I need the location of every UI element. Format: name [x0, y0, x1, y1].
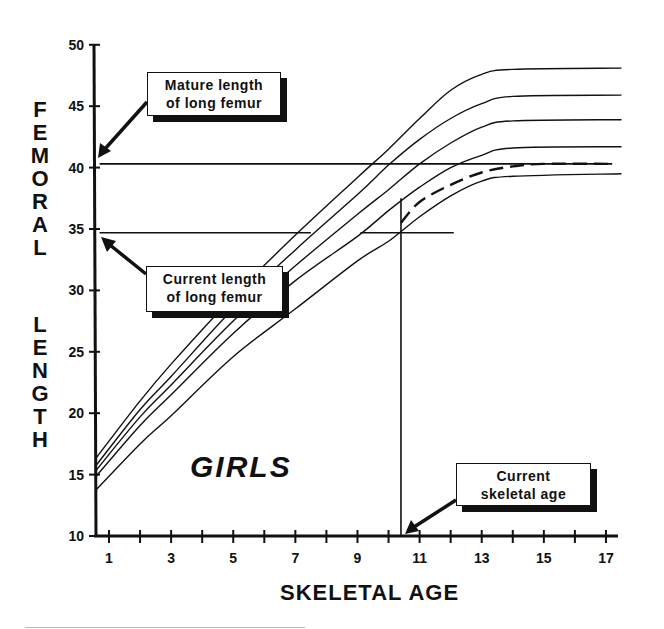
- skeletal-age-arrow: [414, 500, 456, 527]
- y-tick-label: 20: [68, 405, 84, 421]
- x-axis-title: SKELETAL AGE: [280, 580, 459, 605]
- x-tick-label: 3: [167, 550, 175, 566]
- group-label: GIRLS: [190, 450, 292, 483]
- x-tick-label: 7: [291, 550, 299, 566]
- growth-curve: [401, 164, 612, 223]
- y-tick-label: 15: [68, 467, 84, 483]
- y-axis-title-letter: T: [33, 404, 47, 429]
- femoral-length-chart: FEMORALLENGTH 101520253035404550 1357911…: [0, 0, 664, 629]
- mature-arrow: [104, 102, 147, 150]
- y-tick-label: 10: [68, 528, 84, 544]
- y-tick-label: 25: [68, 344, 84, 360]
- x-tick-label: 13: [474, 550, 490, 566]
- growth-curve: [97, 68, 622, 457]
- current-length-arrow: [110, 245, 146, 274]
- y-axis-title: FEMORALLENGTH: [31, 97, 49, 452]
- current-length-callout-line1: Current length: [151, 270, 278, 288]
- y-axis-title-letter: H: [32, 427, 48, 452]
- x-tick-label: 1: [105, 550, 113, 566]
- skeletal-age-callout-line1: Current: [461, 467, 586, 485]
- x-tick-label: 17: [598, 550, 614, 566]
- y-axis-title-letter: O: [31, 166, 48, 191]
- growth-curve: [97, 174, 622, 490]
- y-axis-title-letter: E: [33, 335, 48, 360]
- mature-callout-line2: of long femur: [152, 94, 276, 112]
- y-axis-title-letter: G: [31, 381, 48, 406]
- y-tick-label: 50: [68, 37, 84, 53]
- y-tick-label: 45: [68, 98, 84, 114]
- y-axis-title-letter: N: [32, 358, 48, 383]
- x-tick-label: 11: [412, 550, 427, 566]
- mature-length-callout: Mature length of long femur: [147, 72, 281, 116]
- x-tick-label: 9: [354, 550, 362, 566]
- y-axis-title-letter: L: [33, 235, 46, 260]
- y-axis-title-letter: F: [33, 97, 46, 122]
- y-tick-label: 40: [68, 160, 84, 176]
- x-tick-label: 15: [536, 550, 552, 566]
- y-axis-title-letter: M: [31, 143, 49, 168]
- y-axis-title-letter: R: [32, 189, 48, 214]
- y-axis-title-letter: A: [32, 212, 48, 237]
- y-axis-title-letter: E: [33, 120, 48, 145]
- skeletal-age-callout-line2: skeletal age: [461, 485, 586, 503]
- mature-callout-line1: Mature length: [152, 76, 276, 94]
- skeletal-age-callout: Current skeletal age: [456, 463, 591, 506]
- y-axis-line: [94, 44, 96, 537]
- bottom-divider: [25, 627, 305, 628]
- y-axis-title-letter: L: [33, 312, 46, 337]
- y-tick-label: 30: [68, 282, 84, 298]
- current-length-callout: Current length of long femur: [146, 266, 283, 312]
- y-tick-label: 35: [68, 221, 84, 237]
- x-tick-label: 5: [229, 550, 237, 566]
- current-length-callout-line2: of long femur: [151, 288, 278, 306]
